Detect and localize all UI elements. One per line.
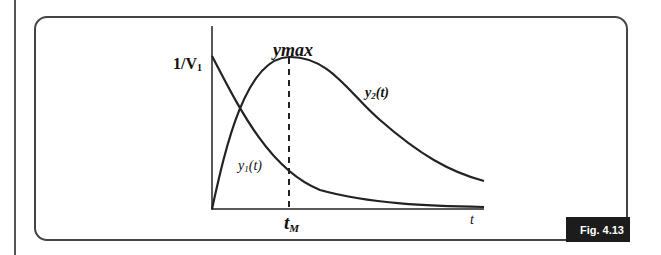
figure-caption-badge: Fig. 4.13 bbox=[566, 217, 630, 242]
y-axis-label: 1/V1 bbox=[173, 55, 202, 73]
curve-y2-label: y2(t) bbox=[365, 85, 389, 101]
curve-y1 bbox=[212, 56, 484, 207]
plot-area bbox=[0, 0, 661, 255]
curve-y1-label: y1(t) bbox=[238, 158, 262, 174]
curve-y2 bbox=[212, 57, 484, 209]
peak-label: ymax bbox=[273, 40, 313, 61]
t-max-label: tM bbox=[284, 212, 299, 234]
x-axis-label: t bbox=[470, 212, 474, 228]
